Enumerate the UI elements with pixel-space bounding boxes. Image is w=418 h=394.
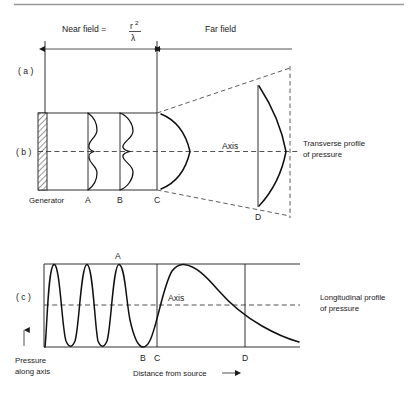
panel-a-boundaries — [45, 41, 157, 113]
marker-b-panel-b: B — [117, 195, 123, 205]
far-field-label: Far field — [205, 24, 236, 34]
panel-c-x-axis-label: Distance from source — [133, 369, 207, 378]
marker-d-panel-c: D — [242, 353, 248, 363]
panel-c-right-caption-line1: Longitudinal profile — [320, 293, 385, 302]
longitudinal-pressure-curve — [45, 264, 299, 347]
panel-c-y-axis-label-line2: along axis — [15, 367, 50, 376]
near-field-denominator: λ — [131, 33, 136, 43]
panel-b-axis-label: Axis — [222, 141, 238, 151]
panel-c-axis-label: Axis — [168, 293, 184, 303]
near-field-annotation: Near field = r 2 λ — [62, 19, 141, 43]
marker-d-panel-b: D — [255, 212, 261, 222]
near-field-label: Near field = — [62, 24, 106, 34]
figure-container: Near field = r 2 λ Far field ( a ) ( b ) — [0, 0, 418, 394]
marker-a-panel-c: A — [115, 251, 121, 261]
marker-b-panel-c: B — [140, 353, 146, 363]
panel-a-label: ( a ) — [18, 66, 33, 76]
panel-b-right-caption-line2: of pressure — [303, 150, 342, 159]
panel-c-y-axis-label-line1: Pressure — [15, 356, 46, 365]
near-field-exponent: 2 — [135, 19, 139, 26]
marker-c-panel-b: C — [154, 195, 160, 205]
panel-c-right-caption-line2: of pressure — [320, 304, 359, 313]
near-field-numerator: r — [130, 21, 133, 31]
divergence-lower-line — [157, 190, 290, 216]
marker-a-panel-b: A — [85, 195, 91, 205]
transverse-profile-d — [259, 86, 286, 206]
ultrasonic-field-diagram: Near field = r 2 λ Far field ( a ) ( b ) — [0, 0, 418, 394]
panel-b-label: ( b ) — [16, 147, 31, 157]
marker-c-panel-c: C — [154, 353, 160, 363]
panel-b-right-caption-line1: Transverse profile — [303, 139, 365, 148]
generator-label: Generator — [29, 196, 65, 205]
panel-c-label: ( c ) — [16, 292, 31, 302]
